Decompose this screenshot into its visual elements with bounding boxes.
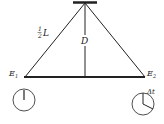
- delta-t-label: Δt: [146, 88, 155, 96]
- light-clock-diagram: 1 2 L D E 1 E 2 Δt: [0, 0, 164, 124]
- E1-label: E: [8, 69, 15, 78]
- left-path-line: [25, 3, 85, 77]
- D-label: D: [80, 36, 88, 46]
- half-L-label: 1 2 L: [37, 25, 49, 39]
- right-path-line: [85, 3, 145, 77]
- E2-subscript: 2: [152, 73, 156, 79]
- svg-text:2: 2: [37, 32, 42, 39]
- E1-subscript: 1: [15, 73, 18, 79]
- svg-text:L: L: [42, 28, 49, 38]
- svg-text:1: 1: [38, 25, 42, 32]
- clock-icon-right: [132, 93, 154, 115]
- clock-icon-left: [13, 89, 35, 111]
- E2-label: E: [146, 69, 153, 78]
